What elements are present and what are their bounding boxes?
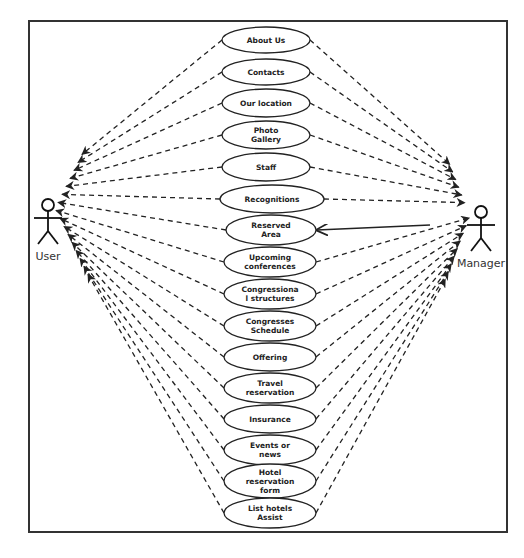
use-case-label: Gallery (251, 135, 281, 144)
use-case-reserved-area: ReservedArea (226, 215, 316, 245)
use-case-label: Upcoming (249, 253, 291, 262)
manager-to-reserved-area (317, 225, 430, 230)
use-case-about-us: About Us (222, 27, 310, 53)
use-case-label: Contacts (247, 68, 285, 77)
use-case-label: conferences (244, 262, 296, 271)
use-case-travel-reservation: Travelreservation (224, 373, 316, 403)
actor-user: User (34, 199, 62, 263)
use-case-label: List hotels (248, 504, 293, 513)
actor-head-icon (475, 206, 487, 218)
use-case-contacts: Contacts (222, 59, 310, 85)
use-case-label: Schedule (251, 326, 290, 335)
association-user-our-location (74, 103, 222, 170)
association-manager-congresses-schedule (316, 233, 463, 326)
association-manager-about-us (310, 40, 450, 164)
use-case-label: Congressiona (241, 285, 298, 294)
use-case-recognitions: Recognitions (220, 185, 324, 213)
use-case-label: Reserved (251, 221, 290, 230)
association-manager-congressional-structures (316, 226, 466, 294)
use-case-label: Insurance (249, 415, 291, 424)
use-case-label: Events or (250, 441, 290, 450)
association-manager-offering (316, 241, 460, 357)
use-cases: About UsContactsOur locationPhotoGallery… (220, 27, 324, 528)
use-case-congressional-structures: Congressional structures (224, 279, 316, 309)
use-case-list-hotels-assist: List hotelsAssist (224, 498, 316, 528)
use-case-label: Assist (257, 513, 283, 522)
use-case-label: Hotel (259, 468, 282, 477)
association-user-upcoming-conferences (56, 210, 224, 262)
association-user-events-or-news (80, 258, 224, 450)
use-case-insurance: Insurance (224, 405, 316, 433)
association-user-congressional-structures (60, 218, 224, 294)
actor-label: User (35, 250, 61, 263)
association-user-insurance (76, 250, 224, 419)
actor-manager: Manager (457, 206, 506, 270)
use-case-label: form (260, 486, 280, 495)
use-case-label: About Us (247, 36, 286, 45)
association-user-about-us (82, 40, 222, 154)
association-user-photo-gallery (70, 135, 222, 178)
use-case-label: Area (261, 230, 281, 239)
use-case-events-or-news: Events ornews (224, 435, 316, 465)
association-manager-recognitions (324, 199, 465, 203)
actor-head-icon (42, 199, 54, 211)
association-user-staff (66, 167, 222, 186)
association-user-contacts (78, 72, 222, 162)
use-case-label: l structures (246, 294, 295, 303)
association-user-reserved-area (58, 202, 226, 230)
use-case-our-location: Our location (222, 89, 310, 117)
use-case-label: news (259, 450, 281, 459)
association-user-recognitions (62, 194, 220, 199)
use-case-label: reservation (246, 477, 295, 486)
use-case-photo-gallery: PhotoGallery (222, 121, 310, 149)
actor-label: Manager (457, 257, 506, 270)
use-case-label: Offering (253, 353, 288, 362)
use-case-staff: Staff (222, 153, 310, 181)
use-case-upcoming-conferences: Upcomingconferences (224, 247, 316, 277)
association-manager-insurance (316, 256, 454, 419)
use-case-congresses-schedule: CongressesSchedule (224, 311, 316, 341)
association-manager-travel-reservation (316, 249, 457, 388)
use-case-label: Photo (254, 126, 279, 135)
association-manager-events-or-news (316, 264, 451, 450)
association-user-travel-reservation (72, 242, 224, 388)
association-manager-contacts (310, 72, 453, 172)
use-case-label: Recognitions (245, 195, 300, 204)
association-user-hotel-reservation-form (84, 266, 224, 481)
use-case-label: reservation (246, 388, 295, 397)
use-case-label: Travel (257, 379, 283, 388)
use-case-offering: Offering (224, 343, 316, 371)
use-case-diagram: About UsContactsOur locationPhotoGallery… (0, 0, 524, 558)
use-case-label: Congresses (246, 317, 295, 326)
use-case-label: Our location (240, 99, 292, 108)
use-case-label: Staff (256, 163, 277, 172)
association-user-offering (68, 234, 224, 357)
use-case-hotel-reservation-form: Hotelreservationform (224, 464, 316, 498)
association-user-list-hotels-assist (88, 274, 224, 513)
association-manager-our-location (310, 103, 456, 180)
association-manager-upcoming-conferences (316, 218, 469, 262)
